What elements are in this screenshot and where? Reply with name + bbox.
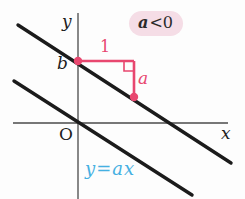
condition-relation: <0 — [149, 13, 173, 32]
run-label: 1 — [100, 39, 110, 55]
right-angle-marker — [124, 62, 134, 71]
equation-label: y=ax — [85, 160, 135, 178]
slope-point — [130, 93, 138, 101]
y-intercept-point — [74, 57, 82, 65]
y-axis-label: y — [62, 13, 72, 30]
x-axis-label: x — [221, 125, 231, 142]
condition-badge: a<0 — [129, 11, 183, 36]
rise-label: a — [138, 70, 148, 87]
condition-variable: a — [138, 13, 148, 32]
graph-canvas: y x O b 1 a a<0 y=ax — [0, 0, 245, 199]
upper-line — [18, 25, 231, 163]
y-intercept-label: b — [57, 55, 68, 72]
origin-label: O — [59, 126, 73, 143]
